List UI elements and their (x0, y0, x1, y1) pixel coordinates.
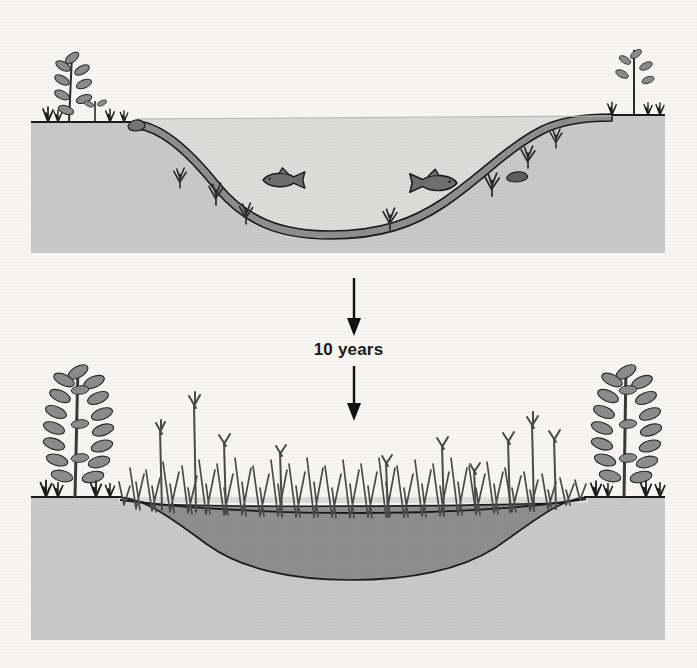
pond-succession-figure (0, 0, 697, 668)
transition-label: 10 years (0, 340, 697, 360)
rock-left-waterline (128, 120, 145, 131)
